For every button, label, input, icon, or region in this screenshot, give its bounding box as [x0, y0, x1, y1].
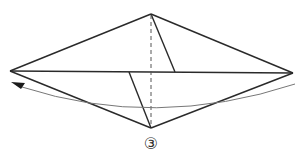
- outline-bottom-right: [151, 73, 293, 128]
- origami-diagram: [0, 0, 305, 156]
- lower-flap-edge: [129, 72, 151, 128]
- step-number-label: ③: [141, 134, 161, 154]
- outline-top-left: [10, 14, 151, 71]
- arrowhead-icon: [11, 82, 25, 89]
- outline-bottom-left: [10, 71, 151, 128]
